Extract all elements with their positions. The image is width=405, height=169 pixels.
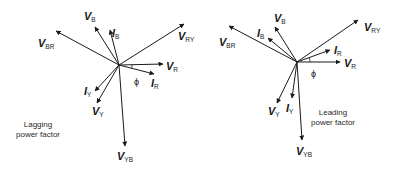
phasor-v-b xyxy=(275,27,297,62)
phasor-label: VBR xyxy=(38,37,55,50)
phasor-label: VBR xyxy=(219,36,236,49)
phasor-v-yb xyxy=(297,62,302,140)
phasor-v-y xyxy=(97,65,119,103)
phasor-i-r xyxy=(119,65,154,74)
phasor-i-b xyxy=(268,38,297,62)
phasor-label: VB xyxy=(274,12,286,25)
phasor-label: IB xyxy=(257,27,264,40)
phasor-v-ry xyxy=(297,20,358,62)
phasor-label: IY xyxy=(286,102,294,115)
phasor-label: VRY xyxy=(364,21,381,34)
phasor-label: IR xyxy=(151,77,159,90)
phasor-label: IB xyxy=(112,27,119,40)
phasor-v-br xyxy=(229,26,297,62)
phasor-v-yb xyxy=(119,65,125,146)
phasor-i-y xyxy=(95,65,119,91)
phasor-v-r xyxy=(119,64,163,65)
lagging-phasor-diagram: VBRVBIBVRYVRIRIYVYVYBϕLaggingpower facto… xyxy=(16,10,195,163)
phasor-label: VY xyxy=(92,105,104,118)
power-factor-caption: Leadingpower factor xyxy=(311,108,355,127)
phasor-i-r xyxy=(297,50,330,62)
phasor-label: VYB xyxy=(296,145,312,158)
phasor-label: VR xyxy=(344,57,356,70)
power-factor-caption: Laggingpower factor xyxy=(16,120,60,139)
phase-angle-arc xyxy=(309,58,310,62)
phasor-label: VR xyxy=(166,60,178,73)
leading-phasor-diagram: VBRVBIBVRYIRVRVYIYVYBϕLeadingpower facto… xyxy=(219,12,381,158)
phasor-label: IY xyxy=(84,85,92,98)
phasor-diagrams: VBRVBIBVRYVRIRIYVYVYBϕLaggingpower facto… xyxy=(0,0,405,169)
phasor-label: VYB xyxy=(117,150,133,163)
phasor-label: VB xyxy=(84,10,96,23)
phasor-v-ry xyxy=(119,24,184,65)
phi-label: ϕ xyxy=(134,77,139,87)
phasor-label: VY xyxy=(268,105,280,118)
phi-label: ϕ xyxy=(311,69,316,79)
phasor-label: IR xyxy=(334,44,342,57)
phasor-label: VRY xyxy=(178,30,195,43)
phasor-v-br xyxy=(56,31,119,65)
